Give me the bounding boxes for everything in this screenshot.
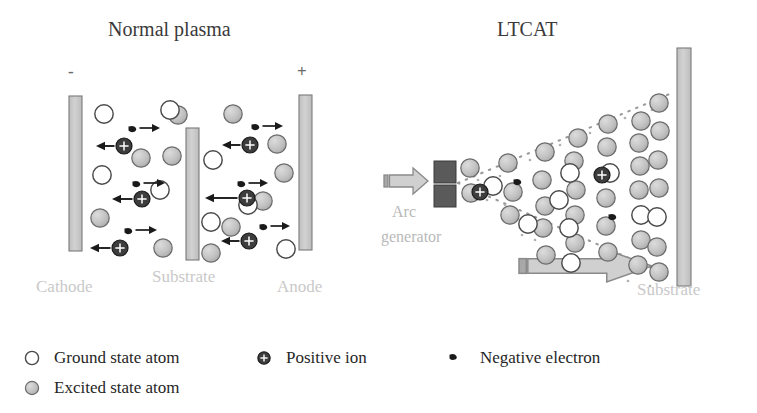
ion-drift-arrow [90, 244, 111, 252]
excited-state-atom [224, 105, 242, 123]
ion-drift-arrow [205, 194, 238, 202]
positive-ion [472, 184, 488, 200]
ground-state-atom [562, 254, 580, 272]
positive-ion [242, 137, 258, 153]
excited-state-atom [154, 239, 172, 257]
arc-generator-label-line2: generator [381, 228, 441, 246]
excited-state-atom [629, 256, 647, 274]
negative-electron-body [609, 214, 617, 220]
legend-label-negative-electron: Negative electron [480, 348, 600, 368]
ion-drift-arrow-head [112, 195, 121, 203]
ion-drift-arrow [96, 142, 115, 150]
negative-electron-arrow-head [152, 124, 160, 132]
panel-title-ltcat: LTCAT [497, 18, 557, 41]
negative-electron-body [238, 181, 246, 187]
bar-substrate-right [677, 48, 691, 286]
excited-state-atom [222, 218, 240, 236]
plume-speckle [529, 159, 532, 162]
excited-state-atom [275, 164, 293, 182]
legend-symbol-excited-state-atom [25, 381, 38, 394]
electrode-label-substrate-left: Substrate [152, 267, 215, 287]
excited-state-atom [202, 244, 220, 262]
substrate-label-right: Substrate [637, 280, 700, 300]
plume-speckle [624, 117, 627, 120]
negative-electron [514, 179, 522, 185]
excited-state-atom [91, 209, 109, 227]
excited-state-atom [268, 135, 286, 153]
excited-state-atom [598, 138, 616, 156]
positive-ion [134, 191, 150, 207]
ground-state-atom [93, 166, 111, 184]
electrode-label-anode: Anode [277, 277, 322, 297]
positive-ion [594, 167, 610, 183]
arc-generator-block-2 [434, 185, 456, 207]
excited-state-atom [461, 159, 479, 177]
arc-feed-arrow [390, 168, 429, 194]
arc-generator-blocks [434, 161, 456, 207]
ground-state-atom [550, 191, 568, 209]
ground-state-atom [561, 164, 579, 182]
ground-state-atom [204, 151, 222, 169]
legend-label-ground-state-atom: Ground state atom [54, 348, 180, 368]
excited-state-atom [536, 143, 554, 161]
ion-drift-arrow-head [90, 244, 99, 252]
plume-speckle [504, 204, 507, 207]
legend-symbol-ground-state-atom [25, 351, 38, 364]
excited-state-atom [597, 189, 615, 207]
excited-state-atom [630, 134, 648, 152]
negative-electron [260, 222, 291, 230]
figure-canvas: Normal plasma LTCAT - + Cathode Substrat… [0, 0, 757, 413]
excited-state-atom [650, 94, 668, 112]
negative-electron-body [514, 179, 522, 185]
ion-drift-arrow [221, 237, 240, 245]
negative-electron-body [252, 124, 260, 130]
ion-drift-arrow-head [205, 194, 214, 202]
bar-substrate [186, 128, 199, 260]
legend-symbol-negative-electron [450, 354, 457, 360]
plume-speckle [589, 132, 592, 135]
legend-label-positive-ion: Positive ion [286, 348, 367, 368]
negative-electron-arrow-head [275, 122, 283, 130]
positive-ion [116, 138, 132, 154]
plume-speckle [534, 239, 537, 242]
positive-ion [112, 240, 128, 256]
ground-state-atom [161, 101, 179, 119]
excited-state-atom [163, 147, 181, 165]
electrode-label-cathode: Cathode [36, 277, 93, 297]
negative-electron-body [260, 224, 268, 230]
excited-state-atom [504, 183, 522, 201]
excited-state-atom [630, 181, 648, 199]
ground-state-atom [202, 213, 220, 231]
ion-drift-arrow-head [222, 141, 231, 149]
negative-electron [125, 226, 158, 234]
excited-state-atom [648, 238, 666, 256]
excited-state-atom [631, 157, 649, 175]
plume-speckle [499, 175, 502, 178]
deposition-motion-arrow-tail-cap [519, 259, 526, 274]
arc-generator-block-1 [434, 161, 456, 183]
plume-speckle [521, 234, 524, 237]
plume-speckle [627, 280, 630, 283]
ground-state-atom [648, 208, 666, 226]
excited-state-atom [132, 149, 150, 167]
ground-state-atom [277, 240, 295, 258]
negative-electron-arrow-head [282, 222, 290, 230]
panel-title-normal-plasma: Normal plasma [108, 18, 231, 41]
negative-electron [609, 214, 617, 220]
excited-state-atom [533, 171, 551, 189]
plume-speckle [477, 179, 480, 182]
ground-state-atom [95, 105, 113, 123]
plume-speckle [486, 199, 489, 202]
ion-drift-arrow-head [221, 237, 230, 245]
negative-electron-body [129, 126, 137, 132]
excited-state-atom [599, 115, 617, 133]
plume-speckle [559, 144, 562, 147]
excited-state-atom [651, 122, 669, 140]
bar-cathode [69, 96, 82, 251]
ion-drift-arrow-head [96, 142, 105, 150]
excited-state-atom [567, 181, 585, 199]
negative-electron-body [133, 181, 141, 187]
negative-electron-arrow-head [260, 179, 268, 187]
excited-state-atom [501, 206, 519, 224]
bar-anode [299, 95, 312, 250]
